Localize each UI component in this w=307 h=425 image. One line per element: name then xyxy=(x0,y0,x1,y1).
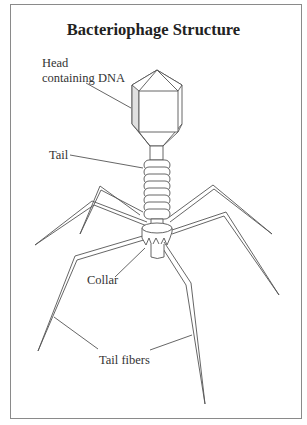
tail-fiber-upper-left xyxy=(35,186,147,245)
tail-fiber-upper-right xyxy=(168,185,279,295)
tail-sheath xyxy=(144,160,170,219)
leader-collar xyxy=(115,248,145,277)
collar xyxy=(142,223,172,246)
tail-fiber-lower-right xyxy=(160,242,205,404)
head-capsid xyxy=(132,70,182,146)
leader-tail-fibers-left xyxy=(54,317,98,349)
tail-tube-lower xyxy=(151,244,164,259)
leader-tail-fibers-right xyxy=(150,335,192,350)
leader-tail xyxy=(70,155,143,168)
bacteriophage-illustration xyxy=(0,0,307,425)
leader-head xyxy=(86,83,131,108)
tail-fiber-lower-left xyxy=(38,235,147,351)
neck xyxy=(150,146,163,160)
